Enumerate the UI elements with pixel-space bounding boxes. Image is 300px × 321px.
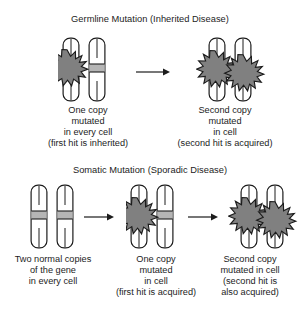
somatic-step-1-caption: Two normal copies of the gene in every c… (0, 254, 108, 287)
arrow-right-icon (188, 211, 218, 223)
chromosome-pair-somatic-3 (228, 180, 300, 252)
germline-step-2-figure (196, 33, 268, 105)
germline-stage: One copy mutated in every cell (first hi… (0, 0, 300, 160)
chromosome-pair-somatic-2 (126, 180, 184, 252)
somatic-step-1-figure (26, 180, 84, 252)
panel-germline-mutation: Germline Mutation (Inherited Disease) On… (0, 0, 300, 160)
somatic-step-2-caption: One copy mutated in cell (first hit is a… (106, 254, 206, 298)
somatic-arrow-2 (188, 209, 218, 227)
germline-step-1-figure (58, 33, 116, 105)
germline-step-2-caption: Second copy mutated in cell (second hit … (150, 105, 300, 149)
somatic-step-3-figure (228, 180, 300, 252)
gene-band-right (157, 211, 172, 219)
arrow-right-icon (84, 211, 114, 223)
gene-band-right (89, 64, 104, 72)
somatic-step-2-figure (126, 180, 184, 252)
starburst-icon-right (225, 55, 264, 91)
arrow-right-icon (136, 66, 170, 78)
gene-band-left (31, 211, 46, 219)
somatic-step-3-caption: Second copy mutated in cell (second hit … (200, 254, 300, 298)
somatic-stage: Two normal copies of the gene in every c… (0, 160, 300, 321)
chromosome-pair-germline-1 (58, 33, 116, 105)
starburst-icon-right (257, 202, 296, 238)
chromosome-pair-somatic-1 (26, 180, 84, 252)
germline-step-1-caption: One copy mutated in every cell (first hi… (18, 105, 158, 149)
germline-arrow-1 (136, 64, 170, 82)
gene-band-right (57, 211, 72, 219)
starburst-icon-left (58, 50, 88, 86)
chromosome-pair-germline-2 (196, 33, 268, 105)
panel-somatic-mutation: Somatic Mutation (Sporadic Disease) Two … (0, 160, 300, 321)
somatic-arrow-1 (84, 209, 114, 227)
